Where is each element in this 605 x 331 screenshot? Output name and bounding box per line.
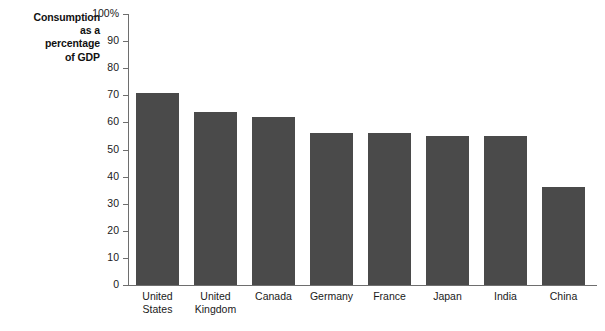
y-tick-label: 50 [107, 143, 119, 156]
y-tick-label: 80 [107, 61, 119, 74]
y-tick-mark [123, 150, 128, 151]
chart-title-line-2: as a [8, 24, 100, 37]
bar-china [542, 187, 585, 285]
bar-france [368, 133, 411, 285]
category-label-line: China [528, 290, 600, 303]
bar-united-states [136, 93, 179, 285]
bar-germany [310, 133, 353, 285]
bar-canada [252, 117, 295, 285]
chart-title: Consumption as a percentage of GDP [8, 11, 100, 64]
y-tick-mark [123, 14, 128, 15]
bar-japan [426, 136, 469, 285]
y-tick-mark [123, 258, 128, 259]
bar-united-kingdom [194, 112, 237, 285]
y-tick-mark [123, 231, 128, 232]
bar-chart: Consumption as a percentage of GDP 01020… [0, 0, 605, 331]
y-tick-label: 60 [107, 115, 119, 128]
bar-india [484, 136, 527, 285]
y-tick-mark [123, 285, 128, 286]
plot-area: 0102030405060708090100% [128, 14, 597, 285]
y-tick-mark [123, 95, 128, 96]
y-tick-mark [123, 122, 128, 123]
y-tick-mark [123, 204, 128, 205]
y-tick-mark [123, 177, 128, 178]
category-label-china: China [528, 290, 600, 303]
y-tick-label: 70 [107, 88, 119, 101]
y-tick-label: 30 [107, 197, 119, 210]
y-tick-label: 0 [113, 278, 119, 291]
y-tick-label: 20 [107, 224, 119, 237]
y-tick-mark [123, 68, 128, 69]
y-tick-label: 90 [107, 34, 119, 47]
category-label-line: Kingdom [180, 303, 252, 316]
y-axis-line [128, 14, 129, 285]
chart-title-line-1: Consumption [8, 11, 100, 24]
y-tick-label: 10 [107, 251, 119, 264]
y-tick-mark [123, 41, 128, 42]
x-axis-line [128, 285, 597, 286]
chart-title-line-4: of GDP [8, 51, 100, 64]
y-tick-label: 100% [92, 7, 119, 20]
y-tick-label: 40 [107, 170, 119, 183]
chart-title-line-3: percentage [8, 37, 100, 50]
